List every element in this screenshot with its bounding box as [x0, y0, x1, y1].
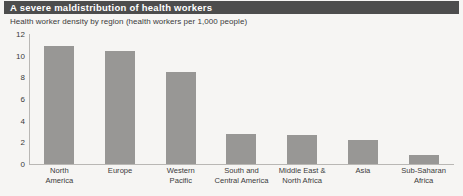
x-tick-label: WesternPacific [148, 166, 214, 186]
bars-group [29, 28, 454, 165]
bar[interactable] [226, 134, 256, 164]
x-tick-label: NorthAmerica [26, 166, 92, 186]
x-tick-label: Middle East &North Africa [269, 166, 335, 186]
y-tick-label: 8 [3, 73, 25, 82]
bar[interactable] [409, 155, 439, 164]
chart-subtitle: Health worker density by region (health … [10, 17, 247, 26]
x-tick-label: South andCentral America [209, 166, 275, 186]
plot-area: 024681012 NorthAmericaEuropeWesternPacif… [0, 28, 463, 196]
y-axis-tick-labels: 024681012 [0, 28, 25, 196]
x-tick-label-line: Pacific [148, 176, 214, 186]
y-tick-label: 2 [3, 138, 25, 147]
y-tick-label: 12 [3, 30, 25, 39]
x-tick-label-line: Asia [330, 166, 396, 176]
y-tick-label: 10 [3, 51, 25, 60]
chart-title-band: A severe maldistribution of health worke… [4, 1, 459, 14]
x-tick-label-line: North Africa [269, 176, 335, 186]
x-tick-label: Asia [330, 166, 396, 176]
chart-title: A severe maldistribution of health worke… [4, 1, 212, 14]
bar[interactable] [287, 135, 317, 164]
bar[interactable] [44, 46, 74, 164]
y-tick-label: 6 [3, 95, 25, 104]
x-tick-label: Europe [87, 166, 153, 176]
x-axis-tick-labels: NorthAmericaEuropeWesternPacificSouth an… [29, 166, 454, 196]
bar[interactable] [166, 72, 196, 164]
y-tick-label: 4 [3, 116, 25, 125]
x-tick-label-line: Central America [209, 176, 275, 186]
x-tick-label-line: Africa [391, 176, 457, 186]
chart-figure: A severe maldistribution of health worke… [0, 0, 463, 196]
x-tick-label-line: South and [209, 166, 275, 176]
y-tick-label: 0 [3, 160, 25, 169]
x-tick-label-line: North [26, 166, 92, 176]
bar[interactable] [348, 140, 378, 164]
x-tick-label-line: Middle East & [269, 166, 335, 176]
x-tick-label-line: Western [148, 166, 214, 176]
x-tick-label-line: Europe [87, 166, 153, 176]
bar[interactable] [105, 51, 135, 164]
x-tick-label: Sub-SaharanAfrica [391, 166, 457, 186]
x-tick-label-line: America [26, 176, 92, 186]
x-tick-label-line: Sub-Saharan [391, 166, 457, 176]
